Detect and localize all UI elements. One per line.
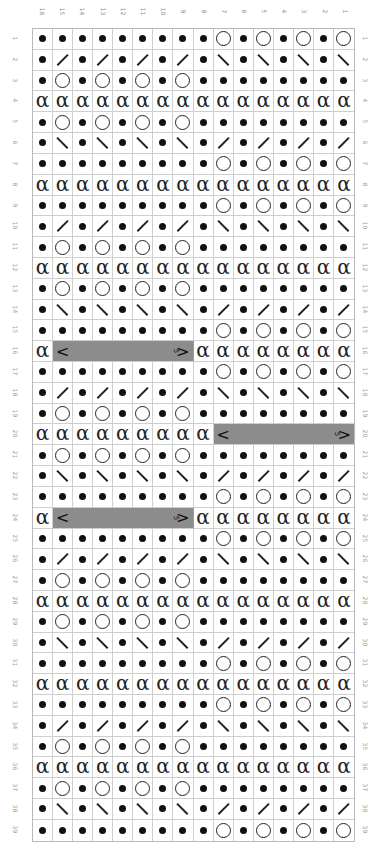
left-slant-icon [57, 137, 69, 149]
k2tog-cell [254, 466, 274, 487]
chart-row: αααααααααααααααα [33, 258, 354, 279]
purl-dot-icon [159, 639, 166, 646]
purl-dot-icon [79, 577, 86, 584]
row-label: 35 [6, 736, 27, 756]
k2tog-cell [53, 383, 73, 404]
yarn-over-circle-icon [216, 531, 231, 546]
twisted-stitch-cell: α [93, 757, 113, 778]
row-label: 27 [356, 570, 377, 590]
ssk-cell [133, 133, 153, 154]
yarn-over-circle-icon [296, 823, 311, 838]
purl-dot-icon [119, 139, 126, 146]
chart-row [33, 466, 354, 487]
purl-dot-icon [159, 327, 166, 334]
ssk-cell [214, 549, 234, 570]
yarn-over-cell [173, 112, 193, 133]
purl-cell [53, 320, 73, 341]
k2tog-cell [173, 716, 193, 737]
purl-dot-icon [39, 327, 46, 334]
purl-cell [214, 612, 234, 633]
purl-dot-icon [119, 493, 126, 500]
purl-dot-icon [179, 160, 186, 167]
purl-dot-icon [200, 805, 207, 812]
purl-cell [113, 466, 133, 487]
purl-cell [113, 216, 133, 237]
purl-cell [234, 799, 254, 820]
purl-dot-icon [159, 389, 166, 396]
purl-cell [73, 612, 93, 633]
twisted-stitch-icon: α [216, 340, 230, 360]
chart-row: α<5>αααααααα [33, 341, 354, 362]
twisted-stitch-cell: α [153, 258, 173, 279]
twisted-stitch-icon: α [176, 673, 190, 693]
purl-dot-icon [159, 785, 166, 792]
twisted-stitch-icon: α [176, 756, 190, 776]
twisted-stitch-cell: α [93, 175, 113, 196]
purl-dot-icon [99, 368, 106, 375]
purl-dot-icon [220, 77, 227, 84]
left-slant-icon [177, 637, 189, 649]
row-label: 33 [6, 694, 27, 714]
purl-dot-icon [159, 805, 166, 812]
twisted-stitch-cell: α [33, 175, 53, 196]
yarn-over-circle-icon [55, 739, 70, 754]
purl-cell [153, 716, 173, 737]
left-slant-icon [137, 304, 149, 316]
purl-dot-icon [260, 785, 267, 792]
purl-dot-icon [320, 368, 327, 375]
purl-dot-icon [320, 77, 327, 84]
k2tog-cell [334, 300, 354, 321]
twisted-stitch-icon: α [176, 174, 190, 194]
purl-dot-icon [280, 556, 287, 563]
purl-dot-icon [99, 660, 106, 667]
right-slant-icon [177, 720, 189, 732]
purl-dot-icon [260, 743, 267, 750]
yarn-over-circle-icon [216, 156, 231, 171]
right-slant-icon [298, 803, 310, 815]
purl-cell [314, 404, 334, 425]
row-label: 39 [6, 819, 27, 839]
yarn-over-circle-icon [55, 115, 70, 130]
yarn-over-circle-icon [256, 531, 271, 546]
purl-dot-icon [280, 202, 287, 209]
purl-dot-icon [240, 472, 247, 479]
yarn-over-circle-icon [296, 31, 311, 46]
purl-dot-icon [260, 618, 267, 625]
purl-dot-icon [119, 827, 126, 834]
purl-cell [133, 196, 153, 217]
purl-dot-icon [200, 327, 207, 334]
purl-cell [314, 362, 334, 383]
twisted-stitch-cell: α [113, 674, 133, 695]
purl-cell [234, 29, 254, 50]
twisted-stitch-cell: α [113, 424, 133, 445]
purl-cell [274, 279, 294, 300]
yarn-over-circle-icon [256, 198, 271, 213]
purl-cell [194, 383, 214, 404]
purl-cell [133, 29, 153, 50]
twisted-stitch-cell: α [334, 258, 354, 279]
purl-cell [33, 466, 53, 487]
twisted-stitch-icon: α [76, 257, 90, 277]
right-slant-icon [57, 720, 69, 732]
right-slant-icon [217, 637, 229, 649]
twisted-stitch-icon: α [136, 590, 150, 610]
ssk-cell [334, 716, 354, 737]
purl-cell [234, 112, 254, 133]
purl-cell [73, 112, 93, 133]
purl-cell [294, 445, 314, 466]
purl-cell [153, 216, 173, 237]
purl-dot-icon [159, 410, 166, 417]
purl-cell [113, 320, 133, 341]
purl-cell [314, 383, 334, 404]
purl-dot-icon [119, 306, 126, 313]
purl-cell [113, 549, 133, 570]
twisted-stitch-cell: α [214, 757, 234, 778]
yarn-over-cell [294, 196, 314, 217]
twisted-stitch-cell: α [254, 591, 274, 612]
purl-dot-icon [200, 223, 207, 230]
ssk-cell [173, 466, 193, 487]
chart-row: αααααααααααααααα [33, 91, 354, 112]
k2tog-cell [214, 300, 234, 321]
purl-cell [33, 716, 53, 737]
purl-cell [93, 362, 113, 383]
